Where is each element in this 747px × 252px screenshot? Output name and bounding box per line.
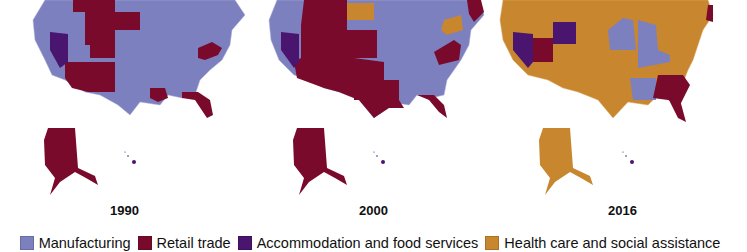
year-label-2016: 2016 (498, 203, 747, 218)
year-label-1990: 1990 (0, 203, 249, 218)
manufacturing-swatch-icon (20, 236, 34, 250)
legend-item-accommodation: Accommodation and food services (238, 235, 479, 251)
legend-label: Accommodation and food services (257, 235, 479, 251)
us-map-1990 (0, 0, 249, 225)
legend-item-retail: Retail trade (138, 235, 231, 251)
legend: Manufacturing Retail trade Accommodation… (0, 233, 747, 252)
retail-swatch-icon (138, 236, 152, 250)
legend-label: Manufacturing (39, 235, 131, 251)
legend-label: Retail trade (157, 235, 231, 251)
year-label-2000: 2000 (249, 203, 498, 218)
map-panel-2000: 2000 (249, 0, 498, 225)
us-map-2016 (498, 0, 747, 225)
legend-item-health: Health care and social assistance (485, 235, 720, 251)
map-panel-1990: 1990 (0, 0, 249, 225)
map-panel-2016: 2016 (498, 0, 747, 225)
legend-label: Health care and social assistance (504, 235, 720, 251)
accommodation-swatch-icon (238, 236, 252, 250)
health-swatch-icon (485, 236, 499, 250)
legend-item-manufacturing: Manufacturing (20, 235, 131, 251)
us-map-2000 (249, 0, 498, 225)
